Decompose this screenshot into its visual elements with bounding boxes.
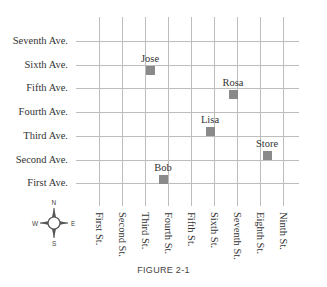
figure-caption: FIGURE 2-1 xyxy=(0,265,327,275)
location-label-bob: Bob xyxy=(154,162,172,174)
street-label: First St. xyxy=(93,212,105,245)
location-label-store: Store xyxy=(256,138,278,150)
avenue-label: Second Ave. xyxy=(16,154,68,166)
location-label-jose: Jose xyxy=(141,53,159,65)
location-marker-jose xyxy=(146,66,155,75)
avenue-line-seventh xyxy=(76,41,299,42)
location-marker-rosa xyxy=(229,90,238,99)
compass-west-label: W xyxy=(32,220,38,227)
street-label: Second St. xyxy=(116,212,128,257)
compass-south-label: S xyxy=(52,240,56,247)
avenue-label: Sixth Ave. xyxy=(24,59,68,71)
location-label-rosa: Rosa xyxy=(223,77,244,89)
avenue-line-fifth xyxy=(76,88,299,89)
compass-east-label: E xyxy=(71,220,75,227)
street-label: Ninth St. xyxy=(277,212,289,250)
avenue-line-sixth xyxy=(76,65,299,66)
avenue-label: Fifth Ave. xyxy=(26,82,68,94)
avenue-label: Seventh Ave. xyxy=(13,35,68,47)
street-label: Seventh St. xyxy=(231,212,243,260)
avenue-line-fourth xyxy=(76,112,299,113)
street-label: Eighth St. xyxy=(254,212,266,254)
compass-north-label: N xyxy=(52,199,57,206)
street-grid-map: Seventh Ave. Sixth Ave. Fifth Ave. Fourt… xyxy=(0,0,327,287)
avenue-label: First Ave. xyxy=(27,177,68,189)
avenue-line-second xyxy=(76,160,299,161)
avenue-label: Third Ave. xyxy=(23,130,68,142)
avenue-label: Fourth Ave. xyxy=(19,106,68,118)
street-label: Fourth St. xyxy=(162,212,174,254)
street-label: Third St. xyxy=(139,212,151,249)
avenue-line-third xyxy=(76,136,299,137)
avenue-line-first xyxy=(76,183,299,184)
street-label: Fifth St. xyxy=(185,212,197,246)
street-label: Sixth St. xyxy=(208,212,220,248)
location-label-lisa: Lisa xyxy=(201,114,219,126)
compass-rose: N S E W xyxy=(32,198,76,248)
location-marker-store xyxy=(263,151,272,160)
location-marker-lisa xyxy=(206,127,215,136)
location-marker-bob xyxy=(159,175,168,184)
